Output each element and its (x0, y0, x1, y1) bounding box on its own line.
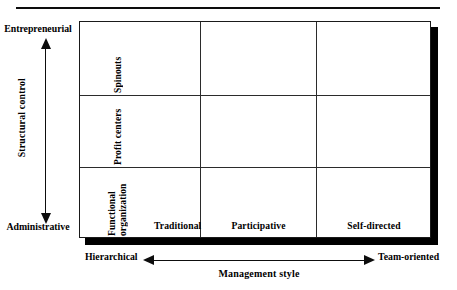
matrix-shadow-right (431, 27, 438, 245)
grid-column-divider-2 (316, 22, 317, 237)
row-label-functional-organization: Functional organization (82, 168, 154, 236)
y-axis-title: Structural control (16, 78, 27, 157)
top-horizontal-rule (16, 7, 440, 9)
x-axis-low-label: Hierarchical (85, 251, 138, 262)
grid-column-divider-1 (200, 22, 201, 237)
y-axis-low-label: Administrative (0, 221, 76, 232)
column-label-self-directed: Self-directed (317, 220, 431, 231)
y-axis-arrow (40, 38, 51, 224)
column-label-traditional: Traditional (154, 220, 200, 231)
matrix-shadow-bottom (85, 238, 438, 245)
arrow-right-icon (364, 255, 375, 265)
x-axis-arrow (143, 255, 375, 266)
organization-matrix-figure: Entrepreneurial Structural control Admin… (0, 0, 457, 290)
row-label-spinouts: Spinouts (82, 24, 154, 93)
x-axis-title: Management style (143, 268, 375, 279)
matrix-grid: Spinouts Profit centers Functional organ… (79, 21, 431, 238)
y-axis-shaft (45, 44, 47, 218)
row-label-profit-centers: Profit centers (82, 96, 154, 165)
column-label-participative: Participative (201, 220, 316, 231)
y-axis-high-label: Entrepreneurial (0, 23, 76, 34)
x-axis-shaft (150, 260, 368, 262)
x-axis-high-label: Team-oriented (378, 251, 439, 262)
